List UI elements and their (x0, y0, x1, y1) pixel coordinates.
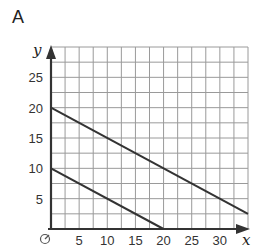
y-tick-label: 5 (36, 192, 43, 207)
y-tick-label: 20 (29, 101, 43, 116)
y-tick-label: 15 (29, 131, 43, 146)
x-tick-label: 10 (100, 233, 114, 248)
y-tick-label: 10 (29, 161, 43, 176)
x-tick-label: 25 (184, 233, 198, 248)
x-tick-label: 20 (156, 233, 170, 248)
line-chart: yx51015202530510152025 (0, 0, 264, 250)
x-tick-label: 15 (128, 233, 142, 248)
y-axis-label: y (32, 41, 42, 59)
y-tick-label: 25 (29, 70, 43, 85)
x-tick-label: 30 (213, 233, 227, 248)
x-axis-label: x (242, 231, 251, 249)
x-tick-label: 5 (76, 233, 83, 248)
